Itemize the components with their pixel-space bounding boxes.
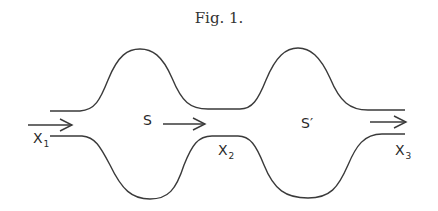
- label-s: S: [143, 112, 152, 128]
- channel-diagram: [0, 0, 438, 211]
- outlet-arrow: [370, 116, 406, 128]
- label-x3: X3: [395, 142, 411, 158]
- figure: Fig. 1. S S′ X1 X2 X3: [0, 0, 438, 211]
- upper-wall: [50, 48, 405, 111]
- label-x2: X2: [218, 142, 234, 158]
- label-x1: X1: [33, 130, 49, 146]
- label-s-prime: S′: [301, 115, 313, 131]
- middle-arrow: [163, 118, 205, 130]
